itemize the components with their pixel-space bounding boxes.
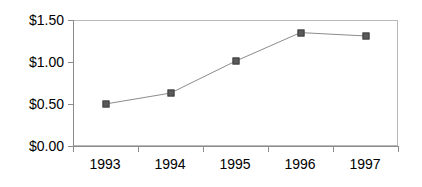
x-tick-label-1996: 1996 bbox=[284, 157, 315, 171]
x-tick-mark-4 bbox=[333, 146, 334, 152]
y-tick-label-3: $1.50 bbox=[29, 13, 64, 27]
y-tick-label-0: $0.00 bbox=[29, 139, 64, 153]
y-tick-label-1: $0.50 bbox=[29, 97, 64, 111]
y-tick-mark-3 bbox=[68, 20, 74, 21]
y-axis-line bbox=[73, 20, 74, 147]
y-tick-mark-2 bbox=[68, 62, 74, 63]
x-tick-mark-5 bbox=[398, 146, 399, 152]
data-point-marker bbox=[102, 101, 109, 108]
plot-area bbox=[73, 20, 398, 146]
x-tick-label-1997: 1997 bbox=[349, 157, 380, 171]
x-tick-label-1995: 1995 bbox=[219, 157, 250, 171]
data-point-marker bbox=[362, 32, 369, 39]
data-point-marker bbox=[167, 90, 174, 97]
y-tick-mark-1 bbox=[68, 104, 74, 105]
x-axis-line bbox=[73, 146, 399, 147]
line-chart-figure: $1.50 $1.00 $0.50 $0.00 1993 1994 1995 1… bbox=[0, 0, 422, 187]
x-tick-mark-1 bbox=[138, 146, 139, 152]
y-tick-label-2: $1.00 bbox=[29, 55, 64, 69]
x-tick-label-1993: 1993 bbox=[89, 157, 120, 171]
data-point-marker bbox=[232, 58, 239, 65]
x-tick-label-1994: 1994 bbox=[154, 157, 185, 171]
data-point-marker bbox=[297, 29, 304, 36]
x-tick-mark-0 bbox=[73, 146, 74, 152]
x-tick-mark-3 bbox=[268, 146, 269, 152]
x-tick-mark-2 bbox=[203, 146, 204, 152]
